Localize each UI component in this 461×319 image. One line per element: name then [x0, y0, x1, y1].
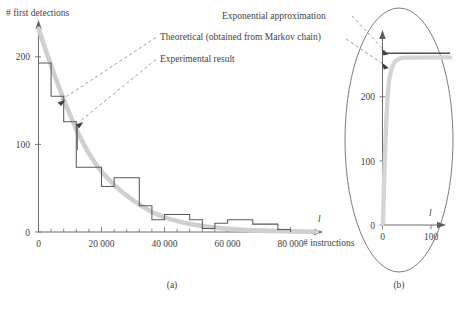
- annotation-experimental-result-label: Experimental result: [160, 54, 235, 64]
- panel-a-ytick-100: 100: [16, 140, 31, 150]
- panel-b-x-ticks: [383, 225, 432, 229]
- panel-a-ytick-200: 200: [16, 52, 31, 62]
- panel-b-ytick-0: 0: [370, 221, 375, 231]
- panel-b-caption: (b): [393, 280, 404, 291]
- annotation-theoretical-label: Theoretical (obtained from Markov chain): [160, 32, 321, 43]
- panel-a-ytick-0: 0: [25, 228, 30, 238]
- panel-a-ylabel: # first detections: [6, 8, 70, 18]
- panel-a-xtick-20000: 20 000: [88, 239, 114, 249]
- annotation-experimental-leader: [79, 60, 156, 123]
- panel-b-xtick-100: 100: [424, 232, 439, 242]
- panel-a-xtick-40000: 40 000: [151, 239, 177, 249]
- panel-a-caption: (a): [167, 280, 178, 291]
- panel-a-xtick-0: 0: [36, 239, 41, 249]
- annotation-exponential-approximation-label: Exponential approximation: [222, 11, 326, 21]
- panel-a-xtick-60000: 60 000: [214, 239, 240, 249]
- annotation-theoretical-leader-a: [61, 38, 156, 101]
- panel-a-xlabel: # instructions: [303, 238, 355, 248]
- figure-root: # first detections 0 100 200: [0, 0, 461, 319]
- panel-b-theoretical-curve: [383, 57, 450, 224]
- panel-a-experimental-step: [39, 63, 291, 232]
- panel-b-x-axis-symbol: l: [429, 208, 432, 218]
- panel-a: # first detections 0 100 200: [6, 8, 355, 291]
- panel-b-ytick-200: 200: [361, 92, 376, 102]
- annotation-theoretical-leader-b: [346, 39, 386, 66]
- panel-b-y-axis-arrow: [379, 30, 385, 39]
- figure-canvas: # first detections 0 100 200: [0, 0, 461, 319]
- panel-b-ytick-100: 100: [361, 157, 376, 167]
- panel-a-xtick-80000: 80 000: [277, 239, 303, 249]
- panel-b-xtick-0: 0: [380, 232, 385, 242]
- annotation-layer: Exponential approximation Theoretical (o…: [58, 11, 389, 150]
- panel-b: 0 100 200 0 100 l (b): [345, 8, 453, 291]
- panel-a-x-axis-symbol: l: [318, 214, 321, 224]
